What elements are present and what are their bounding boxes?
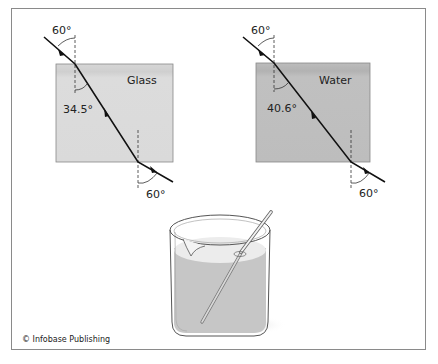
- material-label: Glass: [127, 74, 157, 87]
- copyright-credit: © Infobase Publishing: [22, 335, 110, 344]
- angle-arc-exit: [351, 172, 370, 183]
- incident-angle-label: 60°: [251, 24, 271, 37]
- arrow-icon: [58, 49, 65, 56]
- glass-panel: 60° Glass 34.5° 60°: [44, 24, 173, 201]
- refracted-angle-label: 34.5°: [63, 103, 93, 116]
- exit-angle-label: 60°: [146, 188, 166, 201]
- refracted-angle-label: 40.6°: [267, 102, 297, 115]
- angle-arc-incident: [58, 38, 75, 46]
- angle-arc-incident: [258, 38, 274, 46]
- beaker-illustration: [170, 212, 287, 336]
- water-panel: 60° Water 40.6° 60°: [243, 24, 385, 200]
- material-label: Water: [319, 74, 352, 87]
- exit-angle-label: 60°: [359, 187, 379, 200]
- angle-arc-exit: [138, 172, 158, 183]
- arrow-icon: [150, 166, 157, 173]
- incident-angle-label: 60°: [52, 24, 72, 37]
- arrow-icon: [258, 49, 265, 56]
- refraction-diagram: 60° Glass 34.5° 60° 60° Water 40.6° 60°: [0, 0, 438, 364]
